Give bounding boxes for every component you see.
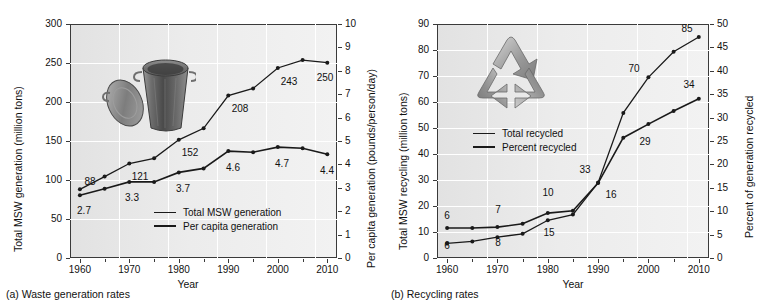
- tick-mark-y: [433, 102, 437, 103]
- legend-item-total-recycled[interactable]: Total recycled: [473, 126, 576, 140]
- tick-label-y2: 25: [717, 136, 728, 146]
- tick-label-y: 40: [403, 149, 429, 159]
- tick-label-y: 0: [34, 253, 62, 263]
- tick-mark-x: [278, 259, 279, 263]
- tick-label-y2: 8: [345, 66, 351, 76]
- tick-label-y2: 40: [717, 66, 728, 76]
- panel-a-plot: 88 121 152 208 243 250 2.7 3.3 3.7 4.6 4…: [70, 24, 337, 258]
- tick-label-x: 2010: [688, 265, 710, 275]
- tick-mark-y2: [338, 71, 342, 72]
- tick-label-y2: 35: [717, 89, 728, 99]
- tick-label-y: 150: [34, 136, 62, 146]
- tick-label-y2: 9: [345, 42, 351, 52]
- tick-label-y2: 7: [345, 89, 351, 99]
- tick-mark-x-minor: [303, 259, 304, 262]
- tick-label-x: 1990: [587, 265, 609, 275]
- tick-label-y2: 10: [345, 19, 356, 29]
- figure-waste-and-recycling: Total MSW generation (million tons) Per …: [0, 0, 765, 302]
- panel-a-x-axis-title: Year: [177, 278, 198, 290]
- legend-label: Total MSW generation: [183, 207, 281, 218]
- tick-mark-y2: [710, 71, 714, 72]
- tick-label-y2: 0: [717, 253, 723, 263]
- tick-mark-x-minor: [623, 259, 624, 262]
- tick-label-y2: 20: [717, 159, 728, 169]
- tick-label-y: 80: [403, 45, 429, 55]
- tick-mark-x-minor: [105, 259, 106, 262]
- tick-mark-y: [66, 63, 70, 64]
- data-label-total-1960: 88: [84, 176, 95, 187]
- tick-mark-x: [598, 259, 599, 263]
- tick-mark-y2: [710, 211, 714, 212]
- data-label-upper-1970: 7: [495, 204, 501, 215]
- tick-mark-y: [433, 206, 437, 207]
- data-label-lower-1980: 15: [543, 227, 554, 238]
- tick-mark-y2: [338, 164, 342, 165]
- tick-label-x: 1970: [486, 265, 508, 275]
- tick-label-y: 100: [34, 175, 62, 185]
- tick-mark-x: [80, 259, 81, 263]
- tick-mark-y2: [710, 258, 714, 259]
- data-label-lower-1970: 8: [495, 237, 501, 248]
- tick-mark-y: [66, 102, 70, 103]
- tick-label-x: 2010: [316, 265, 338, 275]
- panel-a-y2-axis-title: Per capita generation (pounds/person/day…: [365, 69, 377, 268]
- tick-mark-x: [129, 259, 130, 263]
- data-label-lower-1960: 6: [444, 240, 450, 251]
- tick-mark-y: [433, 232, 437, 233]
- tick-mark-x: [179, 259, 180, 263]
- tick-mark-y: [433, 24, 437, 25]
- tick-label-y2: 0: [345, 253, 351, 263]
- tick-label-y2: 50: [717, 19, 728, 29]
- tick-mark-x-minor: [573, 259, 574, 262]
- legend-label: Percent recycled: [502, 142, 576, 153]
- tick-label-y2: 30: [717, 113, 728, 123]
- data-label-total-2010: 250: [317, 72, 334, 83]
- panel-b-y2-axis-title: Percent of generation recycled: [743, 96, 755, 238]
- legend-line-icon: [473, 146, 495, 148]
- tick-mark-y2: [338, 188, 342, 189]
- tick-mark-x: [548, 259, 549, 263]
- tick-label-y: 200: [34, 97, 62, 107]
- tick-mark-x-minor: [154, 259, 155, 262]
- tick-mark-y2: [338, 258, 342, 259]
- panel-a-legend: Total MSW generation Per capita generati…: [154, 205, 281, 233]
- tick-mark-y: [66, 24, 70, 25]
- tick-mark-y: [66, 180, 70, 181]
- tick-label-y: 90: [403, 19, 429, 29]
- data-label-upper-2010: 85: [681, 23, 692, 34]
- legend-item-percent-recycled[interactable]: Percent recycled: [473, 140, 576, 154]
- tick-label-x: 1980: [537, 265, 559, 275]
- tick-mark-y: [433, 50, 437, 51]
- data-label-total-1970: 121: [132, 171, 149, 182]
- tick-mark-y2: [338, 94, 342, 95]
- tick-mark-x: [497, 259, 498, 263]
- tick-mark-y2: [338, 235, 342, 236]
- data-label-percapita-1990: 4.6: [226, 162, 240, 173]
- data-label-lower-1990: 16: [605, 189, 616, 200]
- tick-mark-x: [648, 259, 649, 263]
- data-label-lower-2000: 29: [639, 136, 650, 147]
- data-label-upper-1960: 6: [444, 210, 450, 221]
- tick-mark-y2: [338, 141, 342, 142]
- tick-label-y: 30: [403, 175, 429, 185]
- tick-mark-x-minor: [523, 259, 524, 262]
- tick-label-x: 2000: [267, 265, 289, 275]
- tick-label-y2: 15: [717, 183, 728, 193]
- legend-item-total-msw-generation[interactable]: Total MSW generation: [154, 205, 281, 219]
- legend-line-icon: [154, 212, 176, 213]
- data-label-percapita-1980: 3.7: [176, 183, 190, 194]
- legend-item-per-capita-generation[interactable]: Per capita generation: [154, 219, 281, 233]
- legend-line-icon: [473, 133, 495, 134]
- tick-mark-y2: [710, 235, 714, 236]
- tick-mark-y2: [710, 118, 714, 119]
- tick-label-x: 1990: [217, 265, 239, 275]
- panel-a-y-axis-title: Total MSW generation (million tons): [12, 86, 24, 252]
- tick-mark-x-minor: [472, 259, 473, 262]
- tick-label-y2: 1: [345, 230, 351, 240]
- tick-mark-x: [447, 259, 448, 263]
- tick-mark-y2: [710, 141, 714, 142]
- panel-b-legend: Total recycled Percent recycled: [473, 126, 576, 154]
- tick-mark-y: [433, 180, 437, 181]
- tick-label-x: 1980: [168, 265, 190, 275]
- tick-label-y: 50: [403, 123, 429, 133]
